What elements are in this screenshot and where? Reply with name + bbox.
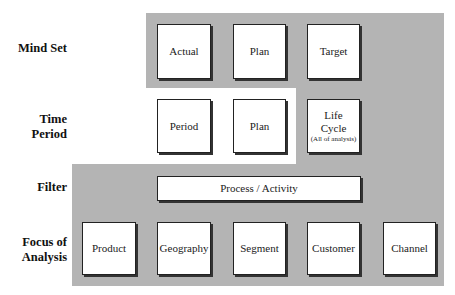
focus-product-box: Product (82, 222, 136, 275)
row-label-focus-line1: Focus of (22, 235, 67, 250)
life-cycle-note: (All of analysis) (311, 135, 357, 144)
box-label: Plan (250, 120, 270, 133)
mind-set-target-box: Target (307, 24, 360, 79)
time-period-life-cycle-box: Life Cycle (All of analysis) (307, 99, 360, 153)
row-label-time-period-line2: Period (32, 127, 67, 142)
box-label: Geography (160, 242, 209, 255)
box-label: Product (92, 242, 126, 255)
box-label: Customer (312, 242, 355, 255)
focus-segment-box: Segment (233, 222, 286, 275)
focus-geography-box: Geography (157, 222, 211, 275)
time-period-period-box: Period (157, 99, 211, 153)
box-label: Channel (391, 242, 428, 255)
focus-channel-box: Channel (383, 222, 436, 275)
life-cycle-line2: Cycle (321, 122, 347, 135)
row-label-time-period-line1: Time (32, 112, 67, 127)
box-label: Process / Activity (220, 182, 298, 195)
box-label: Target (320, 45, 348, 58)
row-label-time-period: Time Period (32, 112, 67, 142)
row-label-focus-of-analysis: Focus of Analysis (22, 235, 67, 265)
row-label-focus-line2: Analysis (22, 250, 67, 265)
box-label: Actual (169, 45, 198, 58)
mind-set-actual-box: Actual (157, 24, 211, 79)
box-label: Segment (240, 242, 279, 255)
row-label-filter: Filter (37, 180, 67, 195)
box-label: Period (170, 120, 199, 133)
row-label-mind-set: Mind Set (18, 41, 67, 56)
mind-set-plan-box: Plan (233, 24, 286, 79)
box-label: Plan (250, 45, 270, 58)
life-cycle-line1: Life (324, 109, 342, 122)
focus-customer-box: Customer (307, 222, 360, 275)
filter-process-activity-box: Process / Activity (157, 176, 361, 201)
time-period-plan-box: Plan (233, 99, 286, 153)
